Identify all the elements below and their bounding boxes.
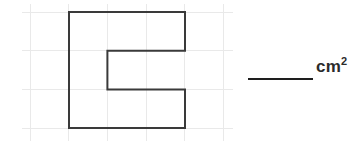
- unit-text: cm: [316, 57, 341, 76]
- grid-lines: [22, 4, 233, 141]
- unit-label: cm2: [316, 56, 347, 75]
- worksheet-figure-canvas: cm2: [0, 0, 354, 152]
- unit-exponent: 2: [341, 55, 347, 67]
- e-shape-polygon: [69, 12, 185, 128]
- geometry-figure: [0, 0, 354, 152]
